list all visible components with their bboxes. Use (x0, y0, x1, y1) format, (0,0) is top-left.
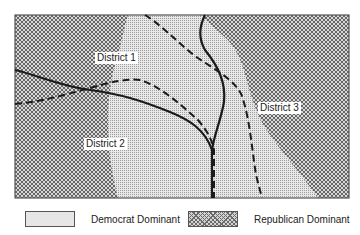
legend-republican: Republican Dominant (188, 211, 350, 227)
legend-republican-label: Republican Dominant (254, 214, 350, 225)
legend-democrat-label: Democrat Dominant (91, 214, 180, 225)
district-2-label: District 2 (84, 138, 127, 150)
republican-swatch (188, 211, 238, 227)
democrat-swatch (25, 211, 75, 227)
legend-democrat: Democrat Dominant (25, 211, 180, 227)
district-3-label: District 3 (258, 102, 301, 114)
district-map (0, 0, 360, 235)
district-1-label: District 1 (95, 52, 138, 64)
